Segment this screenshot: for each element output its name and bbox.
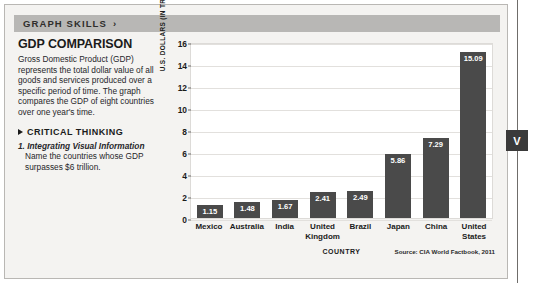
bar: 2.41	[310, 192, 336, 219]
x-axis-tick-label: Australia	[228, 222, 266, 241]
y-axis-tick-mark	[188, 220, 191, 221]
x-axis-tick-label: China	[417, 222, 455, 241]
plot-wrapper: 1614121086420 1.151.481.672.412.495.867.…	[190, 43, 493, 219]
edge-marker-tab[interactable]: V	[506, 130, 528, 151]
x-axis-tick-label: India	[266, 222, 304, 241]
bar-series: 1.151.481.672.412.495.867.2915.09	[191, 44, 492, 218]
x-axis-tick-labels: MexicoAustraliaIndiaUnited KingdomBrazil…	[190, 222, 493, 241]
gdp-comparison-heading: GDP COMPARISON	[18, 37, 156, 51]
bar-slot: 7.29	[417, 44, 455, 218]
bar-value-label: 2.41	[315, 194, 330, 203]
question-number: 1.	[18, 141, 25, 151]
bar-value-label: 1.15	[202, 207, 217, 216]
y-axis-tick-label: 4	[182, 171, 187, 181]
bar-value-label: 2.49	[353, 193, 368, 202]
y-axis-tick-label: 14	[178, 61, 187, 71]
bar-slot: 1.48	[229, 44, 267, 218]
bar-value-label: 7.29	[428, 140, 443, 149]
y-axis-tick-label: 2	[182, 193, 187, 203]
y-axis-tick-label: 10	[178, 105, 187, 115]
bar: 1.15	[197, 205, 223, 218]
gridline	[191, 220, 492, 221]
plot-area: 1614121086420 1.151.481.672.412.495.867.…	[190, 43, 493, 219]
bar-slot: 1.67	[266, 44, 304, 218]
question-skill-name: Integrating Visual Information	[27, 141, 144, 151]
critical-thinking-question: 1. Integrating Visual Information Name t…	[18, 141, 156, 173]
source-note: Source: CIA World Factbook, 2011	[395, 248, 495, 255]
critical-thinking-heading: CRITICAL THINKING	[18, 127, 156, 137]
bar: 2.49	[347, 191, 373, 218]
bar-slot: 15.09	[454, 44, 492, 218]
y-axis-title: U.S. DOLLARS (IN TRILLIONS)	[159, 0, 166, 75]
y-axis-tick-label: 6	[182, 149, 187, 159]
y-axis-tick-label: 8	[182, 127, 187, 137]
bar: 1.67	[272, 200, 298, 218]
gdp-comparison-body: Gross Domestic Product (GDP) represents …	[18, 54, 156, 118]
left-text-column: GDP COMPARISON Gross Domestic Product (G…	[18, 37, 156, 172]
x-axis-tick-label: United Kingdom	[304, 222, 342, 241]
bar-value-label: 1.48	[240, 204, 255, 213]
bar-slot: 2.41	[304, 44, 342, 218]
bar-slot: 5.86	[379, 44, 417, 218]
x-axis-tick-label: Brazil	[342, 222, 380, 241]
y-axis-tick-label: 0	[182, 215, 187, 225]
bar: 5.86	[385, 154, 411, 218]
bar: 7.29	[423, 138, 449, 218]
x-axis-tick-label: Japan	[379, 222, 417, 241]
y-axis-tick-label: 16	[178, 39, 187, 49]
bar-value-label: 5.86	[391, 156, 406, 165]
bar-slot: 1.15	[191, 44, 229, 218]
question-prompt: Name the countries whose GDP surpasses $…	[25, 151, 143, 172]
bar: 1.48	[234, 202, 260, 218]
gdp-bar-chart: U.S. DOLLARS (IN TRILLIONS) 161412108642…	[160, 37, 497, 262]
page-title: GRAPH SKILLS	[14, 18, 107, 29]
x-axis-tick-label: United States	[455, 222, 493, 241]
y-axis-tick-label: 12	[178, 83, 187, 93]
section-header-band: GRAPH SKILLS ›	[14, 15, 500, 32]
bar-slot: 2.49	[342, 44, 380, 218]
critical-thinking-label: CRITICAL THINKING	[27, 127, 123, 137]
edge-marker-label: V	[513, 135, 520, 147]
bar-value-label: 1.67	[278, 202, 293, 211]
chevron-right-icon: ›	[113, 18, 116, 29]
graph-skills-panel: GRAPH SKILLS › GDP COMPARISON Gross Dome…	[4, 4, 508, 279]
bar-value-label: 15.09	[464, 54, 483, 63]
x-axis-tick-label: Mexico	[190, 222, 228, 241]
triangle-right-icon	[18, 129, 23, 135]
bar: 15.09	[460, 52, 486, 218]
